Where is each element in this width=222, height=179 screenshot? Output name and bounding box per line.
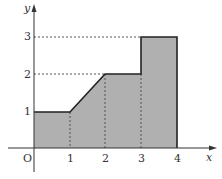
y-axis-arrow-icon <box>32 4 37 12</box>
x-tick-4: 4 <box>174 153 181 164</box>
origin-label: O <box>23 153 32 164</box>
y-tick-2: 2 <box>24 69 31 80</box>
y-axis-label: y <box>24 3 30 14</box>
y-tick-1: 1 <box>24 106 31 117</box>
x-tick-3: 3 <box>138 153 145 164</box>
x-tick-2: 2 <box>102 153 109 164</box>
x-axis-arrow-icon <box>209 146 217 151</box>
x-tick-1: 1 <box>67 153 74 164</box>
y-tick-3: 3 <box>24 31 31 42</box>
area-chart <box>0 0 222 179</box>
x-axis-label: x <box>206 152 212 163</box>
